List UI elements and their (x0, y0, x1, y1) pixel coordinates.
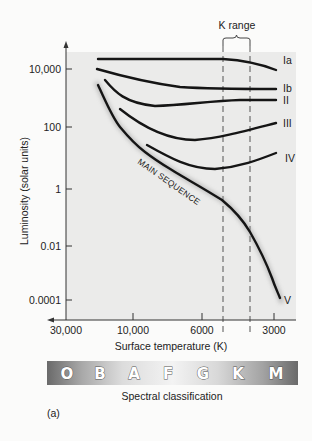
hr-diagram-svg: K range MAIN SEQUENCE Ia Ib II III IV V (0, 0, 312, 441)
label-class-v: V (284, 294, 291, 306)
spectral-letter-f: F (163, 365, 173, 383)
spectral-letter-a: A (128, 365, 140, 383)
x-tick-label: 6000 (190, 324, 214, 336)
label-class-iv: IV (285, 152, 295, 164)
label-class-ib: Ib (283, 82, 292, 94)
spectral-letter-k: K (232, 365, 245, 383)
x-tick-label: 10,000 (117, 324, 149, 336)
y-tick-label: 0.01 (41, 240, 62, 252)
x-tick-label: 3000 (262, 324, 286, 336)
label-class-iii: III (283, 117, 292, 129)
spectral-classification-title: Spectral classification (122, 390, 223, 402)
spectral-letter-b: B (94, 365, 105, 383)
spectral-letter-m: M (269, 365, 284, 383)
x-tick-label: 30,000 (50, 324, 82, 336)
k-range-label: K range (219, 19, 256, 31)
y-tick-label: 1 (55, 183, 61, 195)
x-axis-arrow-icon (47, 318, 54, 323)
y-tick-label: 100 (43, 121, 61, 133)
spectral-letter-g: G (197, 365, 209, 383)
label-class-ii: II (283, 94, 289, 106)
x-axis-title: Surface temperature (K) (115, 340, 228, 352)
spectral-letter-o: O (61, 365, 74, 383)
k-range-brace (223, 35, 250, 46)
y-axis-title: Luminosity (solar units) (18, 137, 30, 245)
label-class-ia: Ia (283, 54, 292, 66)
y-tick-label: 10,000 (29, 63, 61, 75)
y-tick-label: 0.0001 (29, 294, 61, 306)
y-axis-arrow-icon (64, 41, 69, 48)
panel-label: (a) (47, 407, 60, 419)
hr-diagram-figure: K range MAIN SEQUENCE Ia Ib II III IV V (0, 0, 312, 441)
